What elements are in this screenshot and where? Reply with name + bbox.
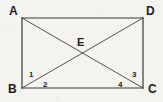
geometry-figure: A D B C E 1 2 3 4 xyxy=(0,0,163,102)
vertex-label-c: C xyxy=(148,83,157,95)
diagonals xyxy=(22,18,143,88)
intersection-label-e: E xyxy=(77,37,84,48)
vertex-label-b: B xyxy=(8,83,17,95)
angle-label-2: 2 xyxy=(43,81,47,89)
angle-label-3: 3 xyxy=(132,71,136,79)
angle-label-1: 1 xyxy=(29,71,33,79)
vertex-label-a: A xyxy=(9,5,18,17)
figure-canvas xyxy=(0,0,163,102)
angle-label-4: 4 xyxy=(118,81,122,89)
vertex-label-d: D xyxy=(146,5,155,17)
